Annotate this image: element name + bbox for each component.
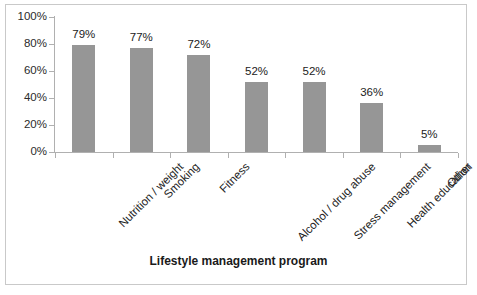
bar[interactable] bbox=[72, 45, 95, 152]
y-axis-tick bbox=[49, 17, 54, 18]
y-axis-tick-label: 100% bbox=[3, 11, 47, 23]
y-axis-tick bbox=[49, 125, 54, 126]
bar-value-label: 52% bbox=[234, 66, 280, 78]
bars-layer bbox=[55, 17, 458, 152]
bar[interactable] bbox=[245, 82, 268, 152]
y-axis-labels: 0%20%40%60%80%100% bbox=[0, 0, 47, 295]
bar-value-label: 52% bbox=[291, 66, 337, 78]
y-axis-tick bbox=[49, 44, 54, 45]
y-axis-tick bbox=[49, 152, 54, 153]
bar-value-label: 72% bbox=[176, 39, 222, 51]
bar-value-label: 5% bbox=[406, 129, 452, 141]
x-axis-tick bbox=[228, 153, 229, 158]
x-axis-tick bbox=[285, 153, 286, 158]
y-axis-tick-label: 20% bbox=[3, 119, 47, 131]
y-axis-tick-label: 40% bbox=[3, 92, 47, 104]
x-axis-line bbox=[54, 152, 458, 153]
y-axis-tick-label: 80% bbox=[3, 38, 47, 50]
bar[interactable] bbox=[303, 82, 326, 152]
chart-figure: 0%20%40%60%80%100% 79%77%72%52%52%36%5% … bbox=[0, 0, 477, 295]
y-axis-tick-label: 0% bbox=[3, 146, 47, 158]
x-axis-tick bbox=[458, 153, 459, 158]
bar-value-label: 36% bbox=[349, 87, 395, 99]
x-axis-tick bbox=[343, 153, 344, 158]
x-axis-tick bbox=[170, 153, 171, 158]
bar[interactable] bbox=[130, 48, 153, 152]
bar[interactable] bbox=[418, 145, 441, 152]
bar[interactable] bbox=[360, 103, 383, 152]
y-axis-tick bbox=[49, 98, 54, 99]
x-axis-tick bbox=[55, 153, 56, 158]
bar[interactable] bbox=[187, 55, 210, 152]
bar-value-label: 77% bbox=[118, 32, 164, 44]
x-axis-tick bbox=[400, 153, 401, 158]
y-axis-tick-label: 60% bbox=[3, 65, 47, 77]
bar-value-label: 79% bbox=[61, 29, 107, 41]
x-axis-tick bbox=[113, 153, 114, 158]
y-axis-tick bbox=[49, 71, 54, 72]
x-axis-title: Lifestyle management program bbox=[0, 254, 477, 268]
